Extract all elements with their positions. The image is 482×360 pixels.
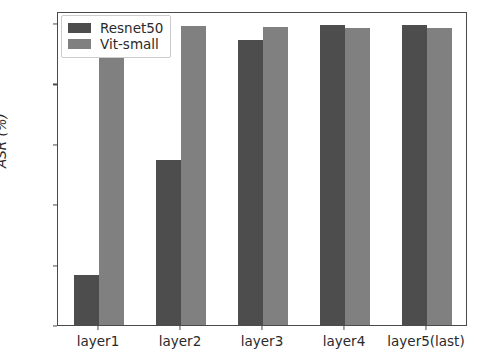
y-tick-mark: [53, 265, 57, 266]
x-tick-mark: [261, 326, 262, 330]
x-tick-label-layer1: layer1: [77, 333, 119, 349]
legend-item-resnet50: Resnet50: [68, 20, 163, 36]
chart-legend: Resnet50 Vit-small: [61, 15, 171, 58]
legend-label-vit-small: Vit-small: [100, 36, 159, 52]
bar-group-layer1: [74, 13, 124, 325]
bar-vit-small-layer1: [99, 23, 124, 325]
bar-chart-figure: ASR (%) Resnet50 Vit-small layer1layer2l…: [0, 0, 482, 360]
y-tick-mark: [53, 144, 57, 145]
y-tick-mark: [53, 84, 57, 85]
bars-layer: [58, 13, 466, 325]
bar-group-layer5-last-: [402, 13, 452, 325]
bar-vit-small-layer4: [345, 28, 370, 325]
plot-area: [57, 12, 467, 326]
bar-group-layer2: [156, 13, 206, 325]
legend-label-resnet50: Resnet50: [100, 20, 163, 36]
x-tick-mark: [179, 326, 180, 330]
y-tick-mark: [53, 325, 57, 326]
legend-swatch-resnet50: [68, 23, 91, 33]
bar-resnet50-layer5-last-: [402, 25, 427, 325]
bar-vit-small-layer5-last-: [427, 28, 452, 325]
x-tick-label-layer4: layer4: [323, 333, 365, 349]
bar-group-layer4: [320, 13, 370, 325]
bar-resnet50-layer2: [156, 160, 181, 325]
y-axis-label: ASR (%): [0, 113, 9, 168]
x-tick-mark: [425, 326, 426, 330]
bar-resnet50-layer4: [320, 25, 345, 325]
y-tick-mark: [53, 24, 57, 25]
bar-vit-small-layer3: [263, 27, 288, 325]
x-tick-label-layer5-last-: layer5(last): [387, 333, 464, 349]
x-tick-mark: [343, 326, 344, 330]
bar-resnet50-layer3: [238, 40, 263, 325]
bar-group-layer3: [238, 13, 288, 325]
y-tick-mark: [53, 205, 57, 206]
x-tick-label-layer3: layer3: [241, 333, 283, 349]
x-tick-label-layer2: layer2: [159, 333, 201, 349]
x-tick-mark: [97, 326, 98, 330]
legend-swatch-vit-small: [68, 39, 91, 49]
bar-vit-small-layer2: [181, 26, 206, 325]
bar-resnet50-layer1: [74, 275, 99, 325]
legend-item-vit-small: Vit-small: [68, 36, 163, 52]
